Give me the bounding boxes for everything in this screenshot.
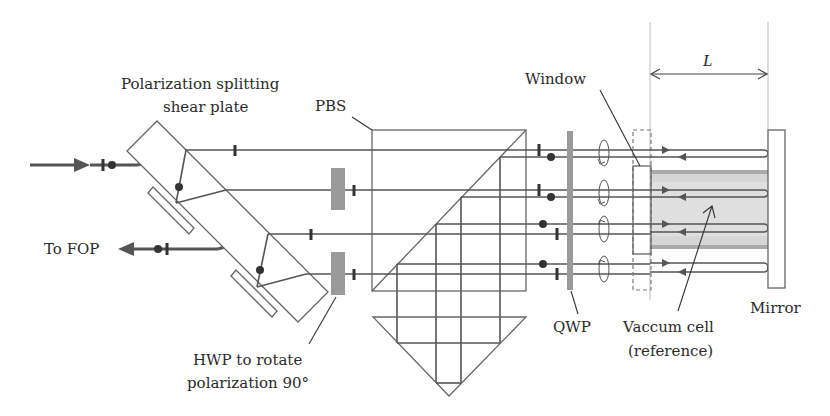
vacuum-cell: [651, 170, 768, 249]
hwp-lower: [331, 252, 345, 295]
label-to-fop: To FOP: [44, 240, 99, 258]
polarization-markers: [539, 144, 557, 280]
label-qwp: QWP: [553, 318, 591, 336]
shear-plate: [127, 121, 328, 322]
label-mirror: Mirror: [750, 299, 802, 317]
corner-prism: [373, 317, 526, 396]
output-arrow-icon: [118, 242, 134, 256]
label-vacuum-1: Vaccum cell: [622, 318, 714, 336]
hwp-upper: [331, 168, 345, 210]
label-length: L: [702, 51, 712, 70]
input-arrow-icon: [74, 158, 90, 172]
label-hwp-1: HWP to rotate: [193, 351, 302, 369]
label-hwp-2: polarization 90°: [187, 374, 309, 392]
circular-polarization-icons: [598, 140, 609, 282]
mirror: [768, 130, 785, 288]
qwp-leader: [571, 291, 578, 314]
label-vacuum-2: (reference): [628, 342, 713, 360]
label-window: Window: [525, 70, 586, 88]
label-pbs: PBS: [315, 97, 346, 115]
qwp: [567, 131, 573, 290]
label-shear-plate-2: shear plate: [163, 98, 248, 116]
label-shear-plate-1: Polarization splitting: [121, 75, 280, 93]
interferometer-diagram: Polarization splitting shear plate PBS W…: [0, 0, 830, 416]
